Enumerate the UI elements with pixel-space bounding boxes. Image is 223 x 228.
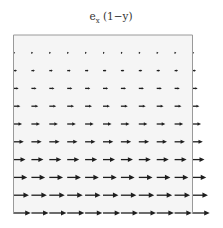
vector-arrow <box>193 140 203 144</box>
arrow-head <box>195 87 197 89</box>
vector-arrow <box>193 193 208 198</box>
arrow-head <box>202 193 208 198</box>
vector-arrow <box>193 122 202 125</box>
arrow-head <box>194 70 196 72</box>
chart-title-rest: (1−y) <box>100 10 133 22</box>
arrow-head <box>198 140 202 144</box>
vector-arrow <box>193 105 200 108</box>
arrow-head <box>204 210 210 215</box>
vector-arrow <box>193 157 205 162</box>
vector-arrow <box>193 210 210 215</box>
vector-arrow <box>193 87 198 89</box>
arrow-head <box>199 157 204 162</box>
vector-arrow <box>193 175 207 180</box>
vector-field-chart: ex (1−y) <box>0 0 223 228</box>
arrow-head <box>197 122 201 125</box>
arrow-head <box>196 105 199 108</box>
chart-title: ex (1−y) <box>89 10 132 25</box>
vector-arrow <box>193 70 196 72</box>
arrow-head <box>201 175 207 180</box>
